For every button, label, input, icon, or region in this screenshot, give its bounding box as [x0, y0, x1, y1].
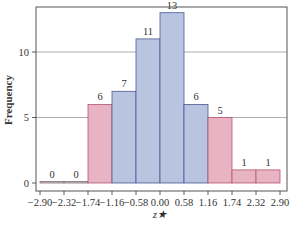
histogram-bar	[208, 118, 232, 184]
x-tick-label: −0.58	[124, 197, 148, 208]
x-tick-label: −2.32	[52, 197, 76, 208]
histogram-chart: 006711136511 0510 −2.90−2.32−1.74−1.16−0…	[0, 0, 293, 225]
histogram-bar	[184, 104, 208, 183]
histogram-bar	[88, 104, 112, 183]
x-tick-label: 2.32	[247, 197, 265, 208]
histogram-bar	[232, 170, 256, 183]
y-tick-label: 5	[24, 112, 29, 123]
histogram-bar	[64, 182, 88, 184]
bar-value-label: 0	[73, 169, 78, 180]
x-tick-label: 1.74	[223, 197, 242, 208]
histogram-bar	[256, 170, 280, 183]
bar-value-label: 13	[167, 0, 178, 11]
y-tick-label: 0	[24, 178, 29, 189]
bar-value-label: 0	[49, 169, 54, 180]
x-tick-label: −2.90	[28, 197, 52, 208]
bar-value-label: 1	[241, 157, 246, 168]
histogram-bar	[40, 182, 64, 184]
bar-value-label: 5	[217, 105, 222, 116]
x-axis: −2.90−2.32−1.74−1.16−0.580.000.581.161.7…	[28, 191, 289, 208]
bar-value-label: 6	[97, 91, 102, 102]
y-axis-title: Frequency	[2, 75, 14, 125]
x-tick-label: −1.74	[76, 197, 101, 208]
x-tick-label: 1.16	[199, 197, 217, 208]
histogram-bar	[112, 91, 136, 183]
x-tick-label: 0.00	[151, 197, 169, 208]
bar-value-label: 11	[143, 26, 153, 37]
x-tick-label: 2.90	[271, 197, 289, 208]
x-tick-label: −1.16	[100, 197, 124, 208]
x-axis-title: z★	[152, 208, 168, 220]
y-tick-label: 10	[19, 47, 30, 58]
y-axis: 0510	[19, 47, 37, 189]
bar-value-label: 6	[193, 91, 198, 102]
histogram-bar	[136, 39, 160, 183]
histogram-bar	[160, 13, 184, 183]
bar-value-label: 1	[265, 157, 270, 168]
bar-value-label: 7	[121, 78, 126, 89]
x-tick-label: 0.58	[175, 197, 193, 208]
